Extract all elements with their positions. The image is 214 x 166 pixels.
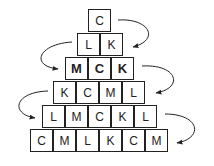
letter-box: K	[53, 81, 76, 104]
arrow-right-icon	[165, 114, 195, 143]
letter-box: M	[65, 57, 88, 80]
letter-box: L	[42, 105, 65, 128]
letter-box: K	[111, 105, 134, 128]
letter-box: K	[100, 33, 123, 56]
letter-box: M	[65, 105, 88, 128]
letter-box: M	[145, 129, 168, 152]
letter-box: M	[99, 81, 122, 104]
arrow-right-icon	[142, 66, 174, 93]
letter-box: C	[76, 81, 99, 104]
letter-box: C	[88, 9, 111, 32]
letter-box: L	[76, 129, 99, 152]
letter-box: C	[88, 57, 111, 80]
letter-box: C	[122, 129, 145, 152]
letter-box: C	[30, 129, 53, 152]
letter-box: M	[53, 129, 76, 152]
letter-box: L	[77, 33, 100, 56]
letter-box: K	[111, 57, 134, 80]
letter-box: C	[88, 105, 111, 128]
letter-box: K	[99, 129, 122, 152]
letter-box: L	[134, 105, 157, 128]
letter-box: L	[122, 81, 145, 104]
